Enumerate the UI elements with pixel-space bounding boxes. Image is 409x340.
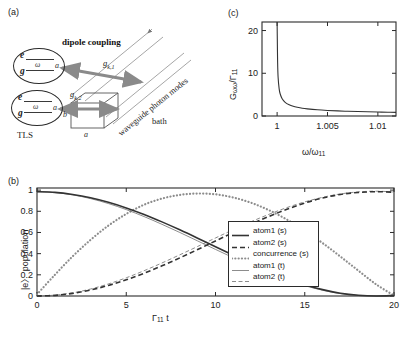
coupling-gk2-label: gk,2 [70, 89, 81, 101]
svg-text:0: 0 [253, 111, 258, 121]
coupling-gk1-subscript: k,1 [107, 64, 114, 70]
atom2-excited-state-label: e [18, 92, 22, 102]
atom1-omega-label: ω [35, 60, 40, 69]
panel-c-x-axis-title: ω/ω11 [302, 147, 325, 157]
svg-text:10: 10 [210, 300, 220, 310]
atom1-excited-state-label: e [20, 50, 24, 60]
svg-text:1: 1 [275, 121, 280, 131]
panel-b-x-sub: 11 [157, 316, 164, 323]
legend-label: atom1 (s) [253, 226, 287, 235]
atom2-omega-label: ω [33, 102, 38, 111]
atom2-ground-state-label: g [18, 108, 23, 118]
panel-c-y-sub1: ωω [231, 83, 238, 93]
atom1-ground-state-label: g [20, 66, 25, 76]
legend-label: atom2 (t) [253, 272, 285, 281]
panel-b-legend[interactable]: atom1 (s)atom2 (s)concurrence (s)atom1 (… [228, 221, 319, 287]
coupling-gk2-subscript: k,2 [74, 95, 81, 101]
panel-b-plot-area: 0510152000.20.40.60.81 [0, 170, 409, 340]
svg-text:0.8: 0.8 [20, 206, 33, 216]
legend-item-0[interactable]: atom1 (s) [232, 225, 314, 237]
panel-c-y-sub2: 11 [231, 69, 238, 76]
panel-b-x-axis-title: Γ11 t [152, 313, 169, 323]
tls-caption: TLS [17, 130, 33, 140]
legend-label: atom2 (s) [253, 238, 287, 247]
atom1-side-label: a [55, 61, 59, 70]
legend-item-4[interactable]: atom2 (t) [232, 271, 314, 283]
panel-c-x-main: ω/ω [302, 147, 319, 157]
legend-item-3[interactable]: atom1 (t) [232, 260, 314, 272]
legend-label: atom1 (t) [253, 261, 285, 270]
svg-text:1.01: 1.01 [369, 121, 387, 131]
photon-mode-ray-arrows [148, 29, 152, 33]
coupling-gk1-label: gk,1 [103, 58, 114, 70]
panel-c-plot-area: 11.0051.0101020 [210, 0, 409, 170]
panel-c-y-slash: /Γ [228, 75, 238, 82]
atom2-side-label: a [53, 103, 57, 112]
svg-text:10: 10 [248, 68, 258, 78]
svg-text:5: 5 [124, 300, 129, 310]
legend-label: concurrence (s) [253, 249, 309, 258]
legend-item-1[interactable]: atom2 (s) [232, 237, 314, 249]
panel-c-x-sub: 11 [319, 150, 326, 157]
legend-key-icon [232, 238, 249, 247]
dipole-coupling-caption: dipole coupling [62, 37, 121, 47]
waveguide-dim-a-label: a [84, 130, 88, 139]
atom1-ground-level-line [26, 70, 54, 71]
svg-text:1.005: 1.005 [316, 121, 339, 131]
panel-a-schematic: (a) [0, 0, 208, 170]
panel-c-chart: (c) 11.0051.0101020 Gωω/Γ11 ω/ω11 [210, 0, 409, 170]
atom2-ground-level-line [24, 112, 52, 113]
panel-b-y-axis-title: |e〉 population [18, 230, 31, 290]
svg-text:20: 20 [389, 300, 399, 310]
panel-b-x-tail: t [164, 313, 169, 323]
panel-b-chart: (b) 0510152000.20.40.60.81 |e〉 populatio… [0, 170, 409, 340]
svg-text:20: 20 [248, 26, 258, 36]
svg-text:15: 15 [300, 300, 310, 310]
waveguide-dim-b-label: b [63, 110, 67, 119]
svg-text:0: 0 [34, 300, 39, 310]
svg-text:1: 1 [28, 185, 33, 195]
legend-key-icon [232, 226, 249, 235]
panel-c-y-main: G [228, 93, 238, 100]
legend-item-2[interactable]: concurrence (s) [232, 248, 314, 260]
legend-key-icon [232, 249, 249, 258]
legend-key-icon [232, 261, 249, 270]
legend-key-icon [232, 272, 249, 281]
bath-label: bath [152, 116, 167, 126]
svg-text:0: 0 [28, 291, 33, 301]
panel-c-y-axis-title: Gωω/Γ11 [228, 69, 238, 100]
